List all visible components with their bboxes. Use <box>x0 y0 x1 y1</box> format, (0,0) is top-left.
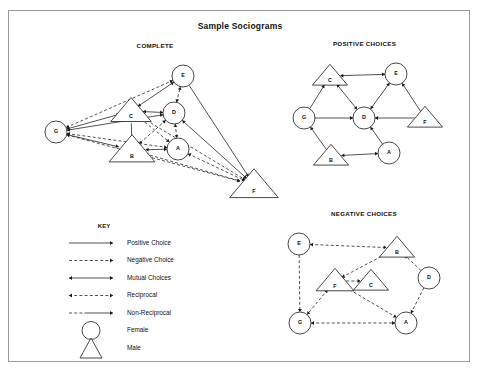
key-item-negative-choice: Negative Choice <box>69 256 174 264</box>
edge-B-G <box>310 127 326 150</box>
key-arrowhead-right <box>110 276 113 280</box>
key-item-non-reciprocal: Non-Reciprocal <box>69 309 171 317</box>
edge-F-E <box>402 83 421 112</box>
edge-E-F <box>189 85 249 176</box>
arrowhead-B-E <box>310 243 313 247</box>
arrowhead-G-B <box>115 144 118 148</box>
sociogram-negative-choices: NEGATIVE CHOICESEBFCDGA <box>288 210 440 334</box>
key-male-triangle-icon <box>80 338 102 358</box>
node-label-C: C <box>328 77 332 83</box>
arrowhead-D-A <box>411 310 414 314</box>
node-label-G: G <box>298 319 302 325</box>
edge-E-G <box>299 255 300 312</box>
arrowhead-C-D <box>160 110 163 114</box>
panel-label: POSITIVE CHOICES <box>333 40 396 47</box>
arrowhead-E-G <box>298 309 302 312</box>
node-label-D: D <box>172 109 176 115</box>
key-item-label: Negative Choice <box>127 256 174 264</box>
key-arrowhead-right <box>110 259 113 263</box>
arrowhead-F-A <box>188 153 192 156</box>
key-item-label: Male <box>127 344 141 351</box>
key-item-label: Reciprocal <box>127 291 157 299</box>
node-label-C: C <box>129 113 133 119</box>
node-label-G: G <box>54 128 58 134</box>
key-arrowhead-right <box>110 241 113 245</box>
key-arrowhead-right <box>110 311 113 315</box>
edge-A-D <box>370 127 382 144</box>
arrowhead-F-A <box>393 314 397 317</box>
key-arrowhead-left <box>69 276 72 280</box>
edge-B-A <box>341 154 378 156</box>
node-label-A: A <box>404 319 408 325</box>
arrowhead-C-E <box>382 73 385 77</box>
edge-F-G <box>307 290 328 315</box>
node-label-E: E <box>394 70 398 76</box>
edge-C-D <box>143 112 163 113</box>
key-arrowhead-right <box>110 294 113 298</box>
key-item-mutual-choices: Mutual Choices <box>69 274 171 281</box>
arrowhead-D-E <box>386 83 389 87</box>
edge-D-A <box>411 288 424 313</box>
key-item-female: Female <box>82 322 149 340</box>
node-label-E: E <box>181 72 185 78</box>
edge-G-B <box>67 135 119 147</box>
key-item-label: Positive Choice <box>127 239 171 246</box>
arrowhead-B-A <box>375 152 378 156</box>
node-label-C: C <box>369 282 373 288</box>
edge-C-E <box>138 82 174 106</box>
key-title: KEY <box>98 223 110 229</box>
edge-E-D <box>370 83 389 109</box>
edge-D-F <box>182 120 246 178</box>
node-label-B: B <box>395 249 399 255</box>
arrowhead-A-G <box>311 321 314 325</box>
edge-F-A <box>345 287 397 318</box>
key-female-circle-icon <box>82 322 100 340</box>
node-label-A: A <box>387 149 391 155</box>
node-label-E: E <box>297 240 301 246</box>
node-label-D: D <box>362 114 366 120</box>
edge-G-F <box>67 135 240 181</box>
arrowhead-G-A <box>392 321 395 325</box>
panel-label: NEGATIVE CHOICES <box>331 210 397 217</box>
node-label-G: G <box>302 114 306 120</box>
arrowhead-B-G <box>310 127 313 131</box>
arrowhead-A-D <box>370 127 373 131</box>
key-legend: KEYPositive ChoiceNegative ChoiceMutual … <box>69 223 174 358</box>
arrowhead-E-D <box>370 106 373 110</box>
edge-G-C <box>310 85 325 109</box>
sociogram-complete: COMPLETEECDGBAF <box>45 42 278 198</box>
sociogram-canvas: COMPLETEECDGBAFPOSITIVE CHOICESCEGDFBANE… <box>9 11 471 363</box>
arrowhead-A-D <box>174 124 178 127</box>
sociogram-positive-choices: POSITIVE CHOICESCEGDFBA <box>293 40 443 165</box>
key-item-reciprocal: Reciprocal <box>69 291 157 299</box>
arrowhead-G-D <box>350 116 353 120</box>
edge-D-B <box>405 255 421 270</box>
arrowhead-B-D <box>162 120 166 123</box>
node-label-A: A <box>176 145 180 151</box>
edge-B-F <box>145 154 240 181</box>
arrowhead-F-D <box>375 116 378 120</box>
key-item-positive-choice: Positive Choice <box>69 239 171 246</box>
diagram-frame: Sample Sociograms COMPLETEECDGBAFPOSITIV… <box>8 10 470 362</box>
key-item-label: Female <box>127 326 149 333</box>
edge-C-D <box>337 84 357 109</box>
key-item-male: Male <box>80 338 141 358</box>
edge-E-B <box>310 244 387 247</box>
node-label-B: B <box>130 153 134 159</box>
key-arrowhead-left <box>69 294 72 298</box>
node-label-D: D <box>427 274 431 280</box>
key-item-label: Mutual Choices <box>127 274 171 281</box>
edge-C-E <box>340 74 385 75</box>
key-item-label: Non-Reciprocal <box>127 309 171 317</box>
node-label-B: B <box>329 157 333 163</box>
panel-label: COMPLETE <box>137 42 174 49</box>
